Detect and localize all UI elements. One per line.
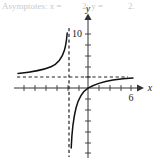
rational-function-graph: y x 10 6 <box>0 0 160 164</box>
x-tick-label-6: 6 <box>129 92 134 103</box>
y-axis-label: y <box>85 3 91 14</box>
y-axis-arrowhead <box>84 14 91 21</box>
curve-left-branch <box>18 33 67 74</box>
x-axis-label: x <box>147 82 153 93</box>
y-tick-label-10: 10 <box>72 28 82 39</box>
x-axis-arrowhead <box>137 84 144 91</box>
curve-right-branch <box>71 78 133 148</box>
